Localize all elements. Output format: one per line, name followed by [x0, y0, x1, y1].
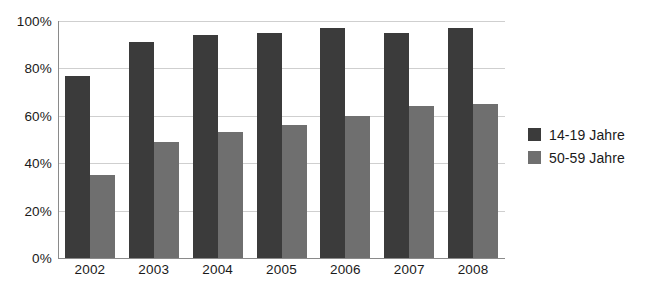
bar-2007-14-19-Jahre: [384, 33, 409, 258]
bar-2006-50-59-Jahre: [345, 116, 370, 258]
bar-group-2006: [320, 21, 370, 258]
x-axis-tick-labels: 2002200320042005200620072008: [58, 262, 505, 284]
bar-2004-14-19-Jahre: [193, 35, 218, 258]
bar-group-2007: [384, 21, 434, 258]
bar-group-2003: [129, 21, 179, 258]
x-axis-tick-label: 2008: [458, 262, 489, 277]
bar-2002-50-59-Jahre: [90, 175, 115, 258]
legend-label: 14-19 Jahre: [549, 127, 625, 143]
gridline-0%: [58, 258, 505, 259]
bar-2003-14-19-Jahre: [129, 42, 154, 258]
bar-group-2004: [193, 21, 243, 258]
bar-chart: 0%20%40%60%80%100% 200220032004200520062…: [0, 0, 667, 297]
y-axis-tick-label: 100%: [2, 14, 52, 29]
bar-group-2008: [448, 21, 498, 258]
y-axis-tick-label: 40%: [2, 156, 52, 171]
bar-2007-50-59-Jahre: [409, 106, 434, 258]
chart-legend: 14-19 Jahre50-59 Jahre: [528, 123, 663, 169]
bar-2008-50-59-Jahre: [473, 104, 498, 258]
bars-layer: [58, 21, 505, 258]
legend-label: 50-59 Jahre: [549, 150, 625, 166]
x-axis-tick-label: 2002: [75, 262, 106, 277]
bar-2003-50-59-Jahre: [154, 142, 179, 258]
y-axis-tick-labels: 0%20%40%60%80%100%: [0, 21, 52, 258]
bar-2006-14-19-Jahre: [320, 28, 345, 258]
y-axis-tick-label: 20%: [2, 203, 52, 218]
y-axis-tick-label: 60%: [2, 108, 52, 123]
legend-item-50-59-Jahre: 50-59 Jahre: [528, 146, 663, 169]
x-axis-tick-label: 2004: [202, 262, 233, 277]
x-axis-tick-label: 2006: [330, 262, 361, 277]
bar-group-2005: [257, 21, 307, 258]
legend-swatch-icon: [528, 128, 541, 141]
y-axis-tick-label: 0%: [2, 251, 52, 266]
bar-2002-14-19-Jahre: [65, 76, 90, 258]
bar-2005-14-19-Jahre: [257, 33, 282, 258]
x-axis-tick-label: 2003: [138, 262, 169, 277]
y-axis-tick-label: 80%: [2, 61, 52, 76]
x-axis-tick-label: 2007: [394, 262, 425, 277]
bar-2008-14-19-Jahre: [448, 28, 473, 258]
legend-swatch-icon: [528, 151, 541, 164]
bar-2004-50-59-Jahre: [218, 132, 243, 258]
x-axis-tick-label: 2005: [266, 262, 297, 277]
bar-2005-50-59-Jahre: [282, 125, 307, 258]
legend-item-14-19-Jahre: 14-19 Jahre: [528, 123, 663, 146]
bar-group-2002: [65, 21, 115, 258]
